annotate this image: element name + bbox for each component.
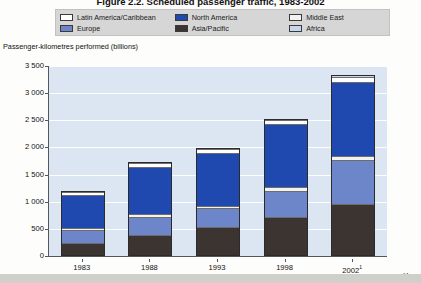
legend-swatch-middle-east	[289, 14, 302, 21]
legend-label-africa: Africa	[306, 25, 324, 33]
legend-label-asia-pacific: Asia/Pacific	[192, 25, 229, 33]
x-axis-tick-label-1983: 1983	[57, 263, 107, 272]
bar-2002[interactable]	[331, 75, 375, 256]
x-axis-tick	[82, 259, 83, 262]
y-axis-tick-label: 3 500	[2, 62, 44, 70]
y-axis-tick-label: 2 500	[2, 116, 44, 124]
bar-segment-asia-pacific	[129, 236, 171, 255]
y-axis-tick-labels: 05001 0001 5002 0002 5003 0003 500	[0, 66, 44, 256]
y-axis-title: Passenger-kilometres performed (billions…	[3, 42, 138, 51]
y-axis-tick	[45, 147, 49, 148]
x-axis-tick-labels: 198319881993199820021	[48, 259, 386, 273]
legend-grid: Latin America/Caribbean North America Mi…	[60, 12, 385, 33]
y-axis-tick-label: 0	[2, 252, 44, 260]
y-axis-tick	[45, 66, 49, 67]
bar-segment-north-america	[129, 168, 171, 216]
y-axis-tick	[45, 175, 49, 176]
x-axis-tick-label-1993: 1993	[192, 263, 242, 272]
chart-legend: Latin America/Caribbean North America Mi…	[55, 9, 390, 36]
x-axis-tick	[285, 259, 286, 262]
y-axis-tick-label: 500	[2, 225, 44, 233]
bar-segment-europe	[332, 161, 374, 204]
legend-item-europe[interactable]: Europe	[60, 25, 173, 33]
bar-segment-north-america	[62, 196, 104, 229]
legend-swatch-asia-pacific	[175, 25, 188, 32]
bar-segment-europe	[62, 231, 104, 244]
x-axis-tick-label-1988: 1988	[124, 263, 174, 272]
bar-1983[interactable]	[61, 191, 105, 256]
legend-label-latin-america: Latin America/Caribbean	[77, 14, 156, 22]
legend-item-africa[interactable]: Africa	[289, 25, 385, 33]
legend-swatch-north-america	[175, 14, 188, 21]
x-axis-tick-label-1998: 1998	[260, 263, 310, 272]
footnote-marker: 1	[359, 264, 362, 270]
gridline	[49, 66, 387, 67]
x-axis-tick-label-2002: 20021	[327, 263, 377, 275]
y-axis-tick	[45, 93, 49, 94]
y-axis-tick-label: 1 500	[2, 171, 44, 179]
legend-swatch-latin-america	[60, 14, 73, 21]
plot-area	[48, 66, 387, 257]
bar-segment-north-america	[332, 83, 374, 157]
y-axis-tick	[45, 202, 49, 203]
bar-segment-asia-pacific	[265, 218, 307, 255]
bar-1998[interactable]	[264, 119, 308, 256]
bar-segment-europe	[129, 218, 171, 236]
page-edge	[0, 274, 421, 283]
figure-container: Figure 2.2. Scheduled passenger traffic,…	[0, 0, 421, 283]
x-axis-tick	[352, 259, 353, 262]
legend-label-north-america: North America	[192, 14, 238, 22]
y-axis-tick	[45, 229, 49, 230]
y-axis-tick-label: 1 000	[2, 198, 44, 206]
y-axis-tick	[45, 120, 49, 121]
legend-label-europe: Europe	[77, 25, 100, 33]
bar-segment-north-america	[265, 125, 307, 188]
bar-segment-north-america	[197, 154, 239, 207]
bar-segment-europe	[197, 209, 239, 228]
bar-segment-asia-pacific	[197, 228, 239, 255]
y-axis-tick	[45, 256, 49, 257]
legend-item-north-america[interactable]: North America	[175, 14, 288, 22]
y-axis-tick-label: 3 000	[2, 89, 44, 97]
bar-segment-europe	[265, 192, 307, 218]
x-axis-tick	[149, 259, 150, 262]
legend-item-latin-america[interactable]: Latin America/Caribbean	[60, 14, 173, 22]
bar-1993[interactable]	[196, 148, 240, 256]
x-axis-tick	[217, 259, 218, 262]
legend-swatch-europe	[60, 25, 73, 32]
legend-item-asia-pacific[interactable]: Asia/Pacific	[175, 25, 288, 33]
bar-segment-asia-pacific	[332, 205, 374, 255]
bar-segment-asia-pacific	[62, 244, 104, 255]
bar-1988[interactable]	[128, 162, 172, 256]
figure-title: Figure 2.2. Scheduled passenger traffic,…	[0, 0, 421, 7]
legend-swatch-africa	[289, 25, 302, 32]
legend-item-middle-east[interactable]: Middle East	[289, 14, 385, 22]
legend-label-middle-east: Middle East	[306, 14, 344, 22]
y-axis-tick-label: 2 000	[2, 143, 44, 151]
